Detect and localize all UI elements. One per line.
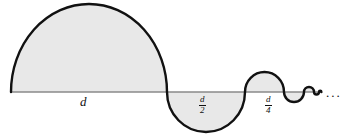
label-diameter-d-over-4: d 4 <box>265 95 272 116</box>
lobe-1-region <box>11 4 167 92</box>
fraction-denominator: 2 <box>199 106 206 115</box>
ellipsis-label: ... <box>326 85 342 101</box>
filled-regions <box>11 4 321 132</box>
fraction-denominator: 4 <box>265 106 272 115</box>
semicircle-figure: d d 2 d 4 ... <box>0 0 356 138</box>
figure-canvas <box>0 0 356 138</box>
lobe-2-region <box>167 92 245 132</box>
lobe-3-region <box>245 72 284 92</box>
label-diameter-d: d <box>80 95 87 108</box>
fraction-numerator: d <box>199 95 206 104</box>
fraction-numerator: d <box>265 95 272 104</box>
label-diameter-d-over-2: d 2 <box>199 95 206 116</box>
